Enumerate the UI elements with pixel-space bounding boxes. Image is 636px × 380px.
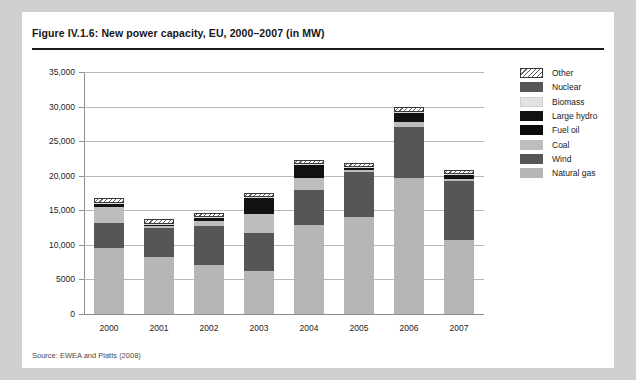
bar-segment-natural-gas — [244, 271, 274, 314]
legend-item-wind[interactable]: Wind — [520, 152, 630, 166]
bar-segment-fuel-oil — [94, 205, 124, 207]
figure-title-block: Figure IV.1.6: New power capacity, EU, 2… — [32, 22, 604, 50]
bar-segment-other — [244, 193, 274, 197]
bar-segment-large-hydro — [194, 218, 224, 219]
legend-item-label: Large hydro — [552, 111, 597, 121]
y-axis-tick — [79, 141, 84, 142]
bar-segment-large-hydro — [144, 224, 174, 225]
legend-item-label: Wind — [552, 154, 571, 164]
legend-item-label: Natural gas — [552, 168, 595, 178]
bar-segment-other — [444, 170, 474, 174]
bar-2002[interactable] — [194, 72, 224, 314]
bar-segment-biomass — [394, 112, 424, 113]
figure-card: Figure IV.1.6: New power capacity, EU, 2… — [22, 12, 614, 368]
bar-segment-biomass — [444, 174, 474, 175]
bar-segment-biomass — [144, 224, 174, 225]
bar-segment-coal — [444, 179, 474, 181]
legend-item-label: Fuel oil — [552, 125, 579, 135]
legend-item-large-hydro[interactable]: Large hydro — [520, 109, 630, 123]
legend-item-nuclear[interactable]: Nuclear — [520, 80, 630, 94]
bar-segment-biomass — [244, 197, 274, 198]
legend-swatch-icon — [520, 140, 543, 150]
bar-segment-other — [344, 163, 374, 167]
bar-segment-coal — [244, 214, 274, 233]
bar-segment-natural-gas — [144, 257, 174, 314]
bar-segment-large-hydro — [294, 165, 324, 166]
bar-segment-wind — [294, 190, 324, 225]
bar-segment-large-hydro — [244, 198, 274, 199]
legend-swatch-icon — [520, 97, 543, 107]
legend-item-other[interactable]: Other — [520, 66, 630, 80]
legend-item-biomass[interactable]: Biomass — [520, 95, 630, 109]
page-title: Figure IV.1.6: New power capacity, EU, 2… — [32, 22, 604, 44]
bar-segment-biomass — [94, 203, 124, 204]
legend-item-coal[interactable]: Coal — [520, 137, 630, 151]
legend-swatch-icon — [520, 82, 543, 92]
legend-item-natural-gas[interactable]: Natural gas — [520, 166, 630, 180]
bar-segment-coal — [194, 221, 224, 226]
bar-segment-natural-gas — [294, 225, 324, 314]
chart-legend: OtherNuclearBiomassLarge hydroFuel oilCo… — [520, 66, 630, 180]
bar-segment-biomass — [344, 167, 374, 168]
y-axis-label: 35,000 — [49, 67, 75, 77]
bar-segment-fuel-oil — [244, 199, 274, 214]
y-axis-tick — [79, 210, 84, 211]
bar-2007[interactable] — [444, 72, 474, 314]
bar-segment-fuel-oil — [444, 176, 474, 179]
source-note: Source: EWEA and Platts (2008) — [32, 351, 141, 360]
y-axis-label: 15,000 — [49, 205, 75, 215]
bar-segment-coal — [344, 170, 374, 172]
bar-segment-wind — [194, 226, 224, 265]
legend-item-fuel-oil[interactable]: Fuel oil — [520, 123, 630, 137]
bar-2005[interactable] — [344, 72, 374, 314]
bar-segment-coal — [94, 207, 124, 224]
chart-area: 0500010,00015,00020,00025,00030,00035,00… — [32, 58, 604, 348]
x-axis-label: 2007 — [450, 323, 469, 333]
bar-segment-coal — [294, 178, 324, 190]
bar-segment-large-hydro — [94, 204, 124, 205]
x-axis-label: 2004 — [300, 323, 319, 333]
bar-segment-wind — [94, 223, 124, 247]
legend-swatch-icon — [520, 111, 543, 121]
bar-segment-wind — [244, 233, 274, 271]
bar-segment-fuel-oil — [144, 225, 174, 226]
x-axis-label: 2001 — [150, 323, 169, 333]
bar-2000[interactable] — [94, 72, 124, 314]
y-axis-label: 25,000 — [49, 136, 75, 146]
y-axis-label: 10,000 — [49, 240, 75, 250]
legend-item-label: Biomass — [552, 97, 585, 107]
bar-2003[interactable] — [244, 72, 274, 314]
bar-segment-large-hydro — [394, 113, 424, 114]
bar-segment-other — [394, 107, 424, 111]
y-axis-tick — [79, 176, 84, 177]
bar-2004[interactable] — [294, 72, 324, 314]
bar-segment-large-hydro — [444, 175, 474, 176]
bar-2001[interactable] — [144, 72, 174, 314]
bar-segment-wind — [144, 228, 174, 256]
bar-segment-other — [94, 198, 124, 203]
bar-segment-coal — [144, 226, 174, 228]
y-axis-tick — [79, 107, 84, 108]
y-axis-label: 20,000 — [49, 171, 75, 181]
legend-item-label: Other — [552, 68, 573, 78]
y-axis-label: 5000 — [56, 274, 75, 284]
bar-segment-wind — [394, 127, 424, 179]
legend-swatch-icon — [520, 154, 543, 164]
bar-segment-natural-gas — [444, 240, 474, 314]
x-axis-label: 2000 — [100, 323, 119, 333]
legend-swatch-icon — [520, 168, 543, 178]
bar-segment-natural-gas — [194, 265, 224, 314]
y-axis-tick — [79, 245, 84, 246]
x-axis — [84, 314, 484, 315]
bar-2006[interactable] — [394, 72, 424, 314]
x-axis-label: 2002 — [200, 323, 219, 333]
bar-segment-natural-gas — [344, 217, 374, 314]
bar-segment-fuel-oil — [394, 114, 424, 122]
bar-segment-other — [194, 213, 224, 217]
bar-segment-biomass — [194, 217, 224, 218]
bar-segment-other — [294, 160, 324, 164]
bar-segment-large-hydro — [344, 168, 374, 169]
legend-item-label: Coal — [552, 140, 569, 150]
legend-swatch-icon — [520, 125, 543, 135]
bar-segment-wind — [344, 172, 374, 216]
